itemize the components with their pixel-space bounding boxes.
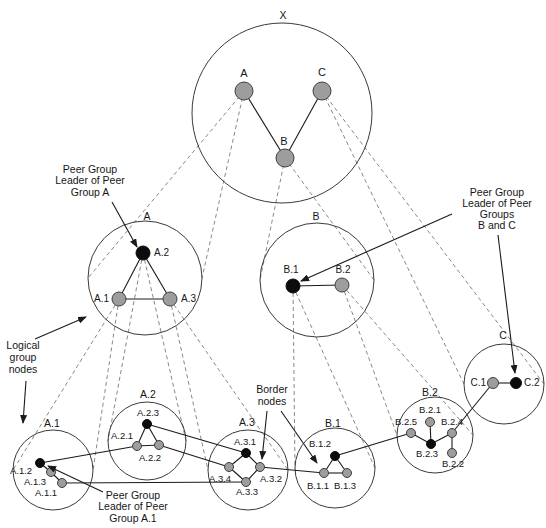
node-label-A.3: A.3 <box>181 293 196 304</box>
node-C.2 <box>511 378 522 389</box>
annotation-logical-group-nodes-line-0: Logical <box>6 339 39 351</box>
node-B.2.4 <box>448 429 457 438</box>
node-label-A.1: A.1 <box>94 293 109 304</box>
hierarchy-link-X.B-B-0 <box>260 158 285 280</box>
annotation-peer-group-leader-a1-line-2: Group A.1 <box>109 512 156 524</box>
link-A.2-A.3 <box>143 253 170 299</box>
link-B.1.2-B.2.5 <box>335 433 411 456</box>
node-label-C.2: C.2 <box>524 377 540 388</box>
node-label-A.3.4: A.3.4 <box>209 473 231 484</box>
figure-canvas: XABCA.1A.2A.3B.1B.2ACBA.2A.1A.3B.1B.2C.1… <box>0 0 546 528</box>
annotation-arrow-border-nodes-0 <box>262 411 267 459</box>
annotation-peer-group-leader-a-line-2: Group A <box>71 186 110 198</box>
node-label-A.3.3: A.3.3 <box>236 486 258 497</box>
node-label-A.3.2: A.3.2 <box>260 473 282 484</box>
node-A.3.4 <box>225 463 234 472</box>
node-label-A.2.1: A.2.1 <box>111 430 133 441</box>
link-A.2-A.1 <box>119 253 143 299</box>
annotation-logical-group-nodes-line-2: nodes <box>9 363 38 375</box>
node-label-B.2: B.2 <box>335 264 350 275</box>
annotation-peer-group-leader-a1-line-1: Leader of Peer <box>98 500 168 512</box>
link-A.1.2-A.2.1 <box>40 446 137 463</box>
annotation-peer-group-leader-bc-line-3: B and C <box>478 219 516 231</box>
node-A.3 <box>163 292 177 306</box>
group-label-B: B <box>312 210 319 222</box>
hierarchy-link-B.1-B1-0 <box>293 286 295 468</box>
hierarchy-link-B.2-B2-0 <box>342 285 397 435</box>
link-X.A-X.B <box>244 91 285 158</box>
node-A.2 <box>136 246 150 260</box>
node-label-X.B: B <box>280 135 287 147</box>
group-label-A3: A.3 <box>239 416 255 428</box>
node-label-X.A: A <box>240 67 248 79</box>
hierarchy-link-X.B-B-1 <box>285 158 374 280</box>
node-label-B.2.2: B.2.2 <box>442 458 464 469</box>
peer-group-circle-A <box>88 221 202 335</box>
node-label-C.1: C.1 <box>470 377 486 388</box>
node-label-A.1.3: A.1.3 <box>24 476 46 487</box>
node-A.3.2 <box>256 463 265 472</box>
group-label-A2: A.2 <box>140 388 156 400</box>
node-X.A <box>235 82 253 100</box>
link-X.B-X.C <box>285 91 322 158</box>
group-label-X: X <box>279 9 286 21</box>
annotation-peer-group-leader-a-line-0: Peer Group <box>63 163 117 175</box>
annotation-arrow-peer-group-leader-a-0 <box>112 202 137 247</box>
node-label-B.1.2: B.1.2 <box>309 438 331 449</box>
node-label-A.2.2: A.2.2 <box>139 452 161 463</box>
node-label-B.1.3: B.1.3 <box>334 480 356 491</box>
node-label-B.2.1: B.2.1 <box>419 404 441 415</box>
node-label-A.2.3: A.2.3 <box>137 407 159 418</box>
node-B.1.1 <box>320 469 329 478</box>
group-label-B2: B.2 <box>422 386 438 398</box>
node-B.2.2 <box>448 449 457 458</box>
node-label-A.3.1: A.3.1 <box>234 436 256 447</box>
node-C.1 <box>488 378 499 389</box>
annotation-arrow-peer-group-leader-bc-0 <box>301 214 452 281</box>
node-A.2.3 <box>143 420 152 429</box>
node-label-X.C: C <box>318 66 326 78</box>
annotation-arrow-logical-group-nodes-1 <box>23 381 26 423</box>
node-B.2.5 <box>407 429 416 438</box>
peer-group-circle-B <box>260 223 374 337</box>
annotation-arrow-peer-group-leader-bc-1 <box>498 235 515 373</box>
node-A.2.2 <box>155 441 164 450</box>
hierarchy-link-A.3-A3-0 <box>170 299 208 470</box>
node-X.C <box>313 82 331 100</box>
node-label-B.2.3: B.2.3 <box>416 448 438 459</box>
pnni-hierarchy-diagram: XABCA.1A.2A.3B.1B.2ACBA.2A.1A.3B.1B.2C.1… <box>0 0 546 528</box>
peer-group-circle-B1 <box>295 428 375 508</box>
hierarchy-link-X.A-A-1 <box>202 91 244 278</box>
link-A.2.2-A.3.4 <box>159 445 229 467</box>
node-A.1 <box>112 292 126 306</box>
annotation-border-nodes-line-1: nodes <box>258 395 287 407</box>
annotation-border-nodes-line-0: Border <box>256 383 288 395</box>
node-label-B.2.4: B.2.4 <box>441 416 463 427</box>
annotation-logical-group-nodes-line-1: group <box>10 351 37 363</box>
node-A.2.1 <box>133 442 142 451</box>
hierarchy-link-A.1-A1-1 <box>93 299 119 470</box>
group-label-A1: A.1 <box>44 417 60 429</box>
node-A.3.1 <box>242 449 251 458</box>
node-X.B <box>276 149 294 167</box>
node-label-A.1.2: A.1.2 <box>10 465 32 476</box>
node-B.1 <box>286 279 300 293</box>
group-label-B1: B.1 <box>325 417 341 429</box>
node-A.1.2 <box>36 459 45 468</box>
node-B.1.3 <box>343 469 352 478</box>
node-label-A.2: A.2 <box>154 247 169 258</box>
node-label-B.1: B.1 <box>283 264 298 275</box>
annotation-peer-group-leader-a1-line-0: Peer Group <box>106 489 160 501</box>
annotation-arrow-logical-group-nodes-0 <box>35 317 86 339</box>
group-label-A: A <box>143 210 150 222</box>
peer-group-circle-X <box>192 23 372 203</box>
hierarchy-link-A.1-A1-0 <box>13 299 119 470</box>
node-label-B.2.5: B.2.5 <box>395 416 417 427</box>
node-A.1.1 <box>58 479 67 488</box>
node-label-A.1.1: A.1.1 <box>35 487 57 498</box>
node-B.2.1 <box>426 418 435 427</box>
annotation-peer-group-leader-a-line-1: Leader of Peer <box>55 174 125 186</box>
node-B.1.2 <box>331 452 340 461</box>
group-label-C: C <box>499 329 507 341</box>
node-label-B.1.1: B.1.1 <box>307 480 329 491</box>
